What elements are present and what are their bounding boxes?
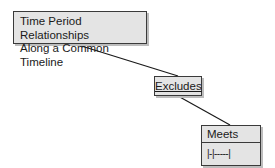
title-line-2: Along a Common Timeline <box>20 42 140 69</box>
connector-excludes-to-meets <box>178 96 230 125</box>
excludes-label[interactable]: Excludes <box>155 80 202 92</box>
title-line-1: Time Period Relationships <box>20 15 140 42</box>
excludes-node[interactable]: Excludes <box>154 76 202 96</box>
title-node: Time Period Relationships Along a Common… <box>13 11 147 44</box>
timeline-symbol: |-|-----| <box>202 143 260 165</box>
meets-label: Meets <box>202 126 260 143</box>
meets-node: Meets |-|-----| <box>201 125 261 166</box>
